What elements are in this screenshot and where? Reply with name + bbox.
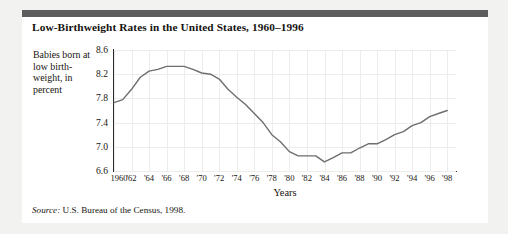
x-tick-96: '96 — [422, 174, 438, 183]
x-tick-70: '70 — [194, 174, 210, 183]
x-tick-80: '80 — [281, 174, 297, 183]
plot-area — [114, 50, 456, 171]
x-tick-76: '76 — [246, 174, 262, 183]
y-tick-8.2: 8.2 — [82, 69, 108, 79]
source-label: Source: — [32, 205, 60, 215]
x-tick-78: '78 — [264, 174, 280, 183]
figure-title: Low-Birthweight Rates in the United Stat… — [32, 21, 304, 33]
x-tick-82: '82 — [299, 174, 315, 183]
x-tick-94: '94 — [404, 174, 420, 183]
screenshot-root: Low-Birthweight Rates in the United Stat… — [0, 0, 508, 234]
source-note: Source: U.S. Bureau of the Census, 1998. — [32, 205, 185, 215]
x-tick-66: '66 — [159, 174, 175, 183]
y-tick-7.8: 7.8 — [82, 93, 108, 103]
x-tick-88: '88 — [352, 174, 368, 183]
x-tick-64: '64 — [141, 174, 157, 183]
x-tick-62: '62 — [124, 174, 140, 183]
x-axis-title: Years — [114, 187, 456, 198]
x-tick-90: '90 — [369, 174, 385, 183]
x-tick-84: '84 — [317, 174, 333, 183]
y-tick-7.0: 7.0 — [82, 142, 108, 152]
accent-top-bar — [22, 10, 488, 17]
y-tick-7.4: 7.4 — [82, 118, 108, 128]
x-tick-86: '86 — [334, 174, 350, 183]
x-tick-92: '92 — [387, 174, 403, 183]
x-tick-98: '98 — [439, 174, 455, 183]
x-tick-74: '74 — [229, 174, 245, 183]
x-tick-72: '72 — [211, 174, 227, 183]
source-text: U.S. Bureau of the Census, 1998. — [63, 205, 186, 215]
line-series-low-birthweight — [114, 50, 456, 171]
y-tick-8.6: 8.6 — [82, 45, 108, 55]
x-tick-68: '68 — [176, 174, 192, 183]
gridline-h-5 — [114, 171, 456, 172]
